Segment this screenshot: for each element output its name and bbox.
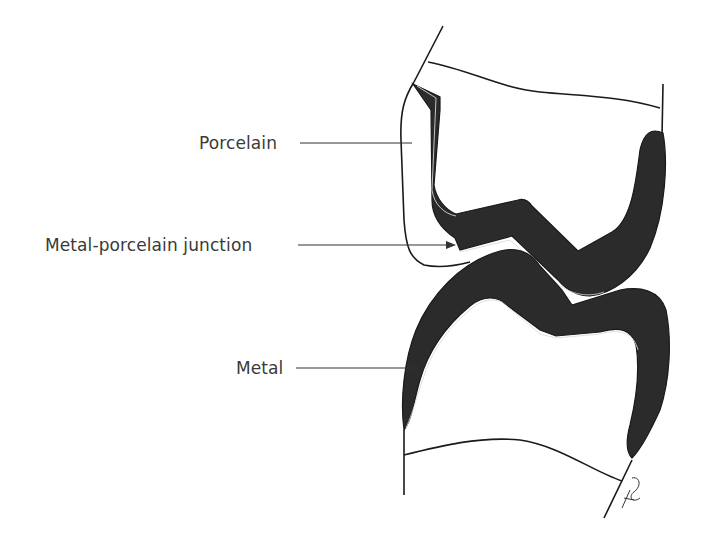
dental-crown-diagram: Porcelain Metal-porcelain junction Metal (0, 0, 712, 549)
crown-illustration (0, 0, 712, 549)
junction-arrowhead (446, 241, 456, 249)
label-metal: Metal (236, 358, 283, 378)
lower-tooth (404, 430, 632, 518)
artist-signature (622, 478, 640, 508)
upper-tooth (414, 26, 663, 136)
lower-metal-crown (403, 249, 670, 458)
label-metal-porcelain-junction: Metal-porcelain junction (45, 235, 252, 255)
label-porcelain: Porcelain (199, 133, 277, 153)
